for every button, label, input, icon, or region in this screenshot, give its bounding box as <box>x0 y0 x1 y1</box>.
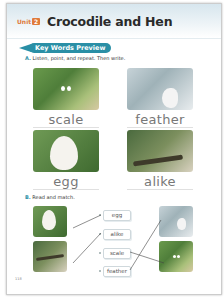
page-number: 118 <box>15 277 22 281</box>
workbook-page: Unit2 Crocodile and Hen Key Words Previe… <box>6 3 222 295</box>
match-lines <box>7 4 221 294</box>
